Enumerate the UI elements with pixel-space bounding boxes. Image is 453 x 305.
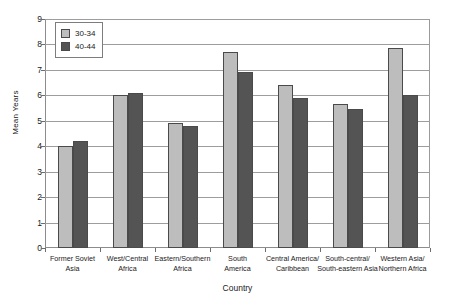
x-tick-mark — [430, 248, 431, 252]
x-category-label-line: South-eastern Asia — [316, 264, 379, 274]
bar-group — [320, 19, 375, 248]
bar — [348, 109, 363, 248]
x-tick-mark — [375, 248, 376, 252]
x-axis-category-labels: Former SovietAsiaWest/CentralAfricaEaste… — [45, 254, 430, 284]
x-tick-mark — [210, 248, 211, 252]
x-tick-mark — [45, 248, 46, 252]
x-category-label: Eastern/SouthernAfrica — [151, 254, 214, 273]
x-category-label: Former SovietAsia — [41, 254, 104, 273]
x-category-label: West/CentralAfrica — [96, 254, 159, 273]
bar-group — [265, 19, 320, 248]
bar — [168, 123, 183, 248]
bar-group — [375, 19, 430, 248]
bar-group — [155, 19, 210, 248]
x-category-label-line: Caribbean — [261, 264, 324, 274]
x-category-label-line: Western Asia/ — [371, 254, 434, 264]
bar — [73, 141, 88, 248]
x-tick-mark — [320, 248, 321, 252]
bar-group — [210, 19, 265, 248]
x-category-label-line: Northern Africa — [371, 264, 434, 274]
bar — [333, 104, 348, 248]
y-axis-title: Mean Years — [11, 68, 20, 158]
x-category-label: SouthAmerica — [206, 254, 269, 273]
x-category-label-line: South-central/ — [316, 254, 379, 264]
x-category-label-line: Africa — [96, 264, 159, 274]
bar — [113, 95, 128, 248]
legend-swatch — [61, 42, 70, 51]
legend-swatch — [61, 29, 70, 38]
legend-entry: 30-34 — [61, 27, 95, 40]
bar — [293, 98, 308, 248]
legend-label: 40-44 — [75, 43, 95, 51]
x-category-label-line: West/Central — [96, 254, 159, 264]
bar — [388, 48, 403, 248]
x-category-label-line: Asia — [41, 264, 104, 274]
bar — [58, 146, 73, 248]
x-category-label: Central America/Caribbean — [261, 254, 324, 273]
x-category-label-line: South — [206, 254, 269, 264]
x-category-label-line: Eastern/Southern — [151, 254, 214, 264]
bar — [223, 52, 238, 248]
x-category-label-line: Africa — [151, 264, 214, 274]
x-category-label: South-central/South-eastern Asia — [316, 254, 379, 273]
x-category-label-line: America — [206, 264, 269, 274]
legend-label: 30-34 — [75, 30, 95, 38]
x-tick-mark — [100, 248, 101, 252]
bar-chart: Mean Years 0123456789 Former SovietAsiaW… — [0, 0, 453, 305]
legend-entry: 40-44 — [61, 40, 95, 53]
bar — [183, 126, 198, 248]
x-tick-mark — [265, 248, 266, 252]
bar-group — [100, 19, 155, 248]
bar — [403, 95, 418, 248]
legend: 30-3440-44 — [55, 22, 103, 58]
x-tick-mark — [155, 248, 156, 252]
bar — [278, 85, 293, 248]
x-category-label-line: Former Soviet — [41, 254, 104, 264]
bar — [238, 72, 253, 248]
x-category-label-line: Central America/ — [261, 254, 324, 264]
x-category-label: Western Asia/Northern Africa — [371, 254, 434, 273]
x-axis-title: Country — [45, 283, 430, 293]
bar — [128, 93, 143, 248]
